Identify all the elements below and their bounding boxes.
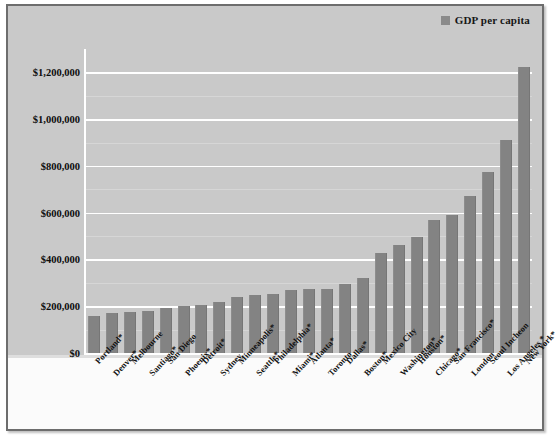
bar[interactable] bbox=[464, 196, 476, 353]
y-axis-tick-label: $0 bbox=[12, 348, 80, 359]
y-axis-tick-label: $1,200,000 bbox=[12, 67, 80, 78]
bar[interactable] bbox=[446, 215, 458, 353]
minor-gridline bbox=[84, 96, 532, 97]
bar[interactable] bbox=[124, 312, 136, 353]
y-axis-tick-label: $400,000 bbox=[12, 254, 80, 265]
bar[interactable] bbox=[500, 140, 512, 353]
bar[interactable] bbox=[339, 284, 351, 353]
bar[interactable] bbox=[303, 289, 315, 353]
y-axis-ticks: $0$200,000$400,000$600,000$800,000$1,000… bbox=[8, 6, 80, 437]
y-axis-tick-label: $200,000 bbox=[12, 301, 80, 312]
bar[interactable] bbox=[88, 316, 100, 353]
y-axis-tick-label: $800,000 bbox=[12, 160, 80, 171]
bar[interactable] bbox=[231, 297, 243, 353]
y-axis-tick-label: $600,000 bbox=[12, 207, 80, 218]
plot-area bbox=[84, 49, 532, 353]
gridline bbox=[84, 166, 532, 168]
chart-legend: GDP per capita bbox=[441, 14, 530, 26]
gridline bbox=[84, 119, 532, 121]
minor-gridline bbox=[84, 143, 532, 144]
gridline bbox=[84, 72, 532, 74]
legend-square-icon bbox=[441, 16, 450, 25]
minor-gridline bbox=[84, 189, 532, 190]
legend-label: GDP per capita bbox=[455, 14, 530, 26]
x-axis-labels: Portland*Denver*MelbourneSantiago*San Di… bbox=[84, 355, 534, 437]
y-axis-tick-label: $1,000,000 bbox=[12, 114, 80, 125]
bar[interactable] bbox=[518, 67, 530, 353]
y-axis-line bbox=[84, 49, 86, 355]
bar[interactable] bbox=[375, 253, 387, 353]
chart-frame: GDP per capita $0$200,000$400,000$600,00… bbox=[6, 4, 544, 431]
